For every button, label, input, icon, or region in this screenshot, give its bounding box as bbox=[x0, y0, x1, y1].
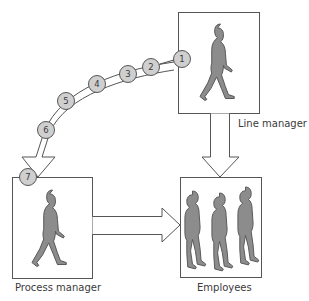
line-manager-box bbox=[179, 13, 260, 114]
step-circle-3: 3 bbox=[120, 66, 137, 83]
line-manager-label: Line manager bbox=[238, 118, 307, 129]
employees-box bbox=[181, 178, 262, 278]
step-circle-5: 5 bbox=[58, 93, 75, 110]
step-circle-2: 2 bbox=[143, 59, 160, 76]
step-circle-7: 7 bbox=[20, 169, 37, 186]
step-number: 7 bbox=[25, 172, 30, 182]
step-circle-6: 6 bbox=[38, 122, 55, 139]
step-number: 6 bbox=[43, 125, 48, 135]
step-number: 2 bbox=[148, 62, 153, 72]
process-manager-label: Process manager bbox=[15, 282, 101, 293]
step-number: 1 bbox=[179, 54, 184, 64]
step-number: 3 bbox=[125, 69, 130, 79]
step-number: 4 bbox=[94, 79, 99, 89]
diagram-canvas: 1 2 3 4 5 6 7 bbox=[0, 0, 309, 301]
step-number: 5 bbox=[63, 96, 68, 106]
line-to-employees-arrow bbox=[202, 114, 239, 178]
step-circle-4: 4 bbox=[89, 76, 106, 93]
process-to-employees-arrow bbox=[93, 208, 181, 242]
process-manager-box bbox=[13, 178, 93, 279]
employees-label: Employees bbox=[197, 282, 252, 293]
step-circle-1: 1 bbox=[174, 51, 191, 68]
